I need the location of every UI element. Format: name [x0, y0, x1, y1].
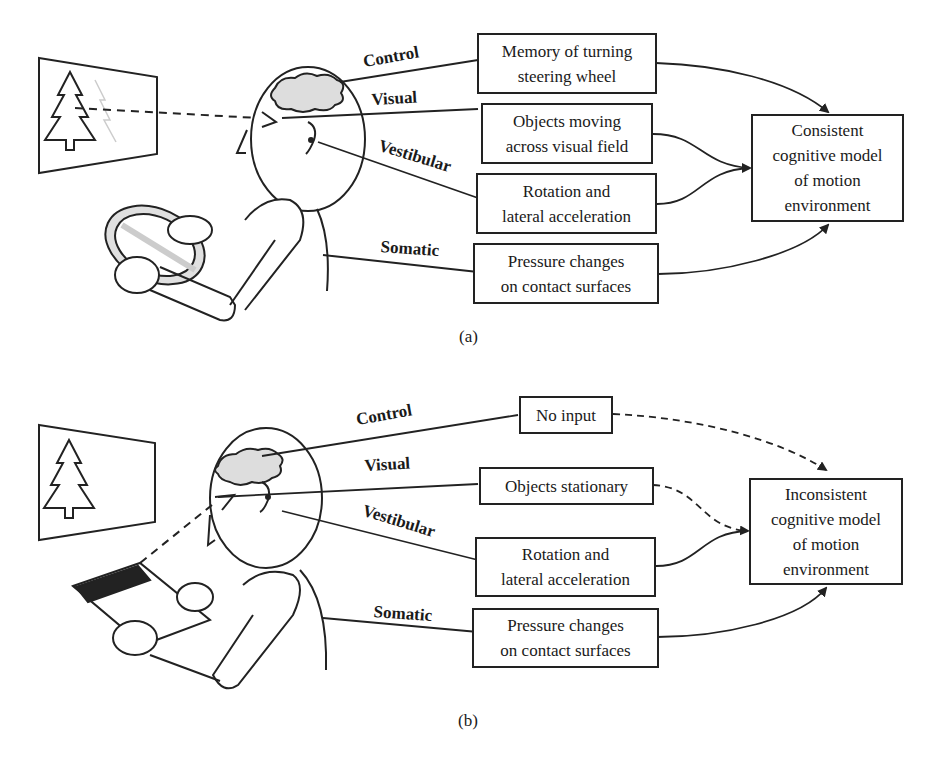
brain-icon [271, 73, 343, 112]
box-somatic-input: Pressure changes on contact surfaces [473, 243, 659, 304]
panel-b-scene [39, 425, 326, 688]
box-somatic-input: Pressure changes on contact surfaces [472, 608, 659, 668]
box-vestibular-input: Rotation and lateral acceleration [476, 173, 657, 234]
channel-label-visual: Visual [364, 454, 411, 476]
caption-a: (a) [459, 327, 478, 347]
box-visual-input: Objects moving across visual field [481, 103, 653, 164]
channel-label-somatic: Somatic [373, 602, 433, 626]
box-result-consistent: Consistent cognitive model of motion env… [751, 114, 904, 222]
box-control-input: Memory of turning steering wheel [477, 33, 657, 94]
channel-label-visual: Visual [371, 88, 418, 110]
panel-a-scene [39, 58, 365, 320]
channel-label-somatic: Somatic [380, 237, 440, 261]
box-vestibular-input: Rotation and lateral acceleration [475, 537, 656, 597]
box-visual-input: Objects stationary [479, 467, 654, 505]
box-result-inconsistent: Inconsistent cognitive model of motion e… [749, 478, 903, 585]
caption-b: (b) [458, 711, 478, 731]
box-control-input: No input [519, 396, 613, 434]
